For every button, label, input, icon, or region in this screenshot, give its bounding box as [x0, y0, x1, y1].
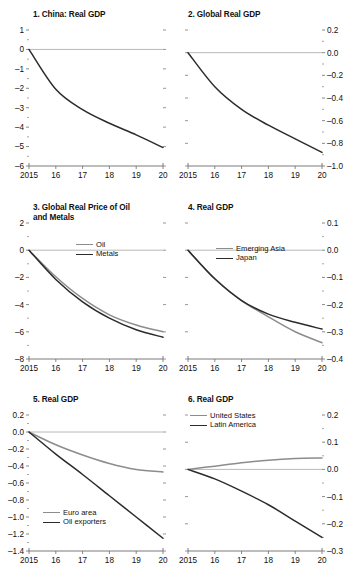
y-tick-label: –6	[15, 328, 25, 337]
legend-item: Euro area	[43, 508, 106, 517]
chart-figure: 1. China: Real GDP 10–1–2–3–4–5–62015161…	[0, 0, 351, 577]
y-tick-label: –0.6	[327, 117, 343, 126]
y-tick-label: 1	[19, 26, 24, 35]
panel-6: 6. Real GDP 0.20.10.0–0.1–0.2–0.32015161…	[176, 385, 351, 577]
legend-swatch-icon	[190, 425, 207, 426]
y-tick-label: –0.1	[327, 273, 343, 282]
legend-item: Metals	[76, 249, 118, 258]
legend-label: Japan	[236, 253, 257, 262]
legend-label: Euro area	[63, 508, 96, 517]
y-tick-label: –0.1	[327, 493, 343, 502]
panel-4-svg: 0.10.0–0.1–0.2–0.3–0.420151617181920	[176, 193, 351, 385]
panel-3-legend: OilMetals	[76, 240, 118, 259]
y-tick-label: 0.2	[327, 26, 339, 35]
panel-5: 5. Real GDP 0.20.0–0.2–0.4–0.6–0.8–1.0–1…	[0, 385, 175, 577]
x-tick-label: 17	[78, 171, 88, 180]
x-tick-label: 2015	[179, 171, 198, 180]
x-tick-label: 17	[78, 364, 88, 373]
legend-item: Oil	[76, 240, 118, 249]
y-tick-label: 0	[19, 246, 24, 255]
legend-label: Metals	[96, 249, 118, 258]
x-tick-label: 2015	[20, 364, 39, 373]
x-tick-label: 17	[78, 556, 88, 565]
x-tick-label: 19	[291, 171, 301, 180]
legend-swatch-icon	[216, 248, 233, 249]
x-tick-label: 18	[264, 364, 274, 373]
legend-swatch-icon	[43, 522, 60, 523]
x-tick-label: 16	[51, 556, 61, 565]
y-tick-label: –6	[15, 162, 25, 171]
y-tick-label: 0.0	[327, 465, 339, 474]
y-tick-label: –0.4	[327, 94, 343, 103]
panel-3-svg: 20–2–4–6–820151617181920	[0, 193, 175, 385]
x-tick-label: 2015	[179, 364, 198, 373]
panel-4-plot: 0.10.0–0.1–0.2–0.3–0.420151617181920	[176, 193, 351, 385]
legend-item: Emerging Asia	[216, 244, 285, 253]
y-tick-label: –0.8	[8, 496, 24, 505]
legend-item: Oil exporters	[43, 517, 106, 526]
y-tick-label: 0	[19, 45, 24, 54]
legend-swatch-icon	[76, 244, 93, 245]
y-tick-label: 0.2	[327, 411, 339, 420]
x-tick-label: 17	[237, 171, 247, 180]
legend-label: Latin America	[210, 420, 256, 429]
x-tick-label: 18	[264, 556, 274, 565]
legend-item: Japan	[216, 253, 285, 262]
x-tick-label: 20	[317, 556, 327, 565]
y-tick-label: 0.0	[327, 49, 339, 58]
x-tick-label: 19	[132, 364, 142, 373]
y-tick-label: –1.2	[8, 530, 24, 539]
legend-label: Oil exporters	[63, 517, 106, 526]
panel-6-legend: United StatesLatin America	[190, 411, 256, 430]
x-tick-label: 18	[264, 171, 274, 180]
x-tick-label: 18	[105, 556, 115, 565]
series-line-1	[29, 49, 163, 147]
panel-5-plot: 0.20.0–0.2–0.4–0.6–0.8–1.0–1.2–1.4201516…	[0, 385, 175, 577]
panel-4: 4. Real GDP 0.10.0–0.1–0.2–0.3–0.4201516…	[176, 193, 351, 385]
y-tick-label: –2	[15, 273, 25, 282]
y-tick-label: –4	[15, 123, 25, 132]
y-tick-label: 0.0	[13, 428, 25, 437]
panel-5-svg: 0.20.0–0.2–0.4–0.6–0.8–1.0–1.2–1.4201516…	[0, 385, 175, 577]
series-line-2	[188, 469, 322, 537]
x-tick-label: 20	[158, 171, 168, 180]
x-tick-label: 20	[317, 171, 327, 180]
y-tick-label: –0.4	[327, 355, 343, 364]
legend-swatch-icon	[76, 254, 93, 255]
legend-label: Emerging Asia	[236, 244, 285, 253]
series-line-1	[188, 250, 322, 342]
x-tick-label: 16	[51, 171, 61, 180]
x-tick-label: 19	[132, 556, 142, 565]
y-tick-label: 2	[19, 219, 24, 228]
panel-4-legend: Emerging AsiaJapan	[216, 244, 285, 263]
x-tick-label: 2015	[179, 556, 198, 565]
y-tick-label: –1.0	[327, 162, 343, 171]
x-tick-label: 16	[210, 364, 220, 373]
x-tick-label: 16	[51, 364, 61, 373]
y-tick-label: –4	[15, 301, 25, 310]
y-tick-label: 0.1	[327, 219, 339, 228]
legend-label: Oil	[96, 240, 105, 249]
x-tick-label: 20	[158, 364, 168, 373]
x-tick-label: 19	[132, 171, 142, 180]
y-tick-label: –5	[15, 142, 25, 151]
series-line-1	[29, 432, 163, 472]
legend-label: United States	[210, 411, 256, 420]
panel-2: 2. Global Real GDP 0.20.0–0.2–0.4–0.6–0.…	[176, 0, 351, 192]
x-tick-label: 19	[291, 556, 301, 565]
panel-1: 1. China: Real GDP 10–1–2–3–4–5–62015161…	[0, 0, 175, 192]
y-tick-label: –0.2	[327, 71, 343, 80]
panel-1-plot: 10–1–2–3–4–5–620151617181920	[0, 0, 175, 192]
legend-swatch-icon	[216, 258, 233, 259]
series-line-2	[29, 250, 163, 337]
legend-swatch-icon	[190, 415, 207, 416]
series-line-1	[29, 250, 163, 332]
panel-3-plot: 20–2–4–6–820151617181920	[0, 193, 175, 385]
series-line-1	[188, 458, 322, 469]
series-line-1	[188, 53, 322, 153]
y-tick-label: –0.3	[327, 547, 343, 556]
y-tick-label: –2	[15, 84, 25, 93]
y-tick-label: –0.2	[8, 445, 24, 454]
y-tick-label: –0.2	[327, 520, 343, 529]
y-tick-label: 0.1	[327, 438, 339, 447]
